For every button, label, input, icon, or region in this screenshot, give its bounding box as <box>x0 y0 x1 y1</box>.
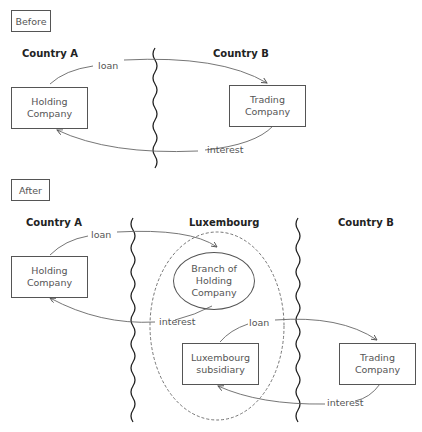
branch-label-2: Holding <box>191 275 237 287</box>
trading-label-2: Company <box>245 106 290 118</box>
subsidiary-label-2: subsidiary <box>191 364 250 376</box>
holding-label-1: Holding <box>27 96 72 108</box>
interest-label: interest <box>207 144 243 156</box>
trading-label-2: Company <box>355 364 400 376</box>
interest-label-2: interest <box>327 397 363 409</box>
loan-label-2: loan <box>249 317 269 329</box>
loan-label-1: loan <box>91 229 111 241</box>
holding-label-2: Company <box>27 108 72 120</box>
trading-company-box-after: TradingCompany <box>339 343 416 385</box>
luxembourg-subsidiary-box: Luxembourgsubsidiary <box>182 343 259 385</box>
country-b-label-after: Country B <box>338 217 394 229</box>
subsidiary-label-1: Luxembourg <box>191 352 250 364</box>
interest-label-1: interest <box>159 316 195 328</box>
border-wave-after-left <box>131 218 135 422</box>
holding-company-box-after: HoldingCompany <box>11 256 88 298</box>
country-a-label: Country A <box>22 48 78 60</box>
country-b-label: Country B <box>213 48 269 60</box>
loan-arrow-before <box>50 66 93 84</box>
holding-label-1: Holding <box>27 265 72 277</box>
branch-label-3: Company <box>191 287 237 299</box>
luxembourg-label: Luxembourg <box>189 217 259 229</box>
trading-label-1: Trading <box>245 94 290 106</box>
branch-label-1: Branch of <box>191 263 237 275</box>
before-tag: Before <box>11 10 51 32</box>
loan-label: loan <box>98 60 118 72</box>
trading-label-1: Trading <box>355 352 400 364</box>
country-a-label-after: Country A <box>26 217 82 229</box>
holding-company-box: HoldingCompany <box>11 87 88 129</box>
border-wave-before <box>153 48 157 168</box>
border-wave-after-right <box>296 218 300 422</box>
branch-ellipse: Branch ofHoldingCompany <box>173 252 255 310</box>
trading-company-box: TradingCompany <box>229 85 306 127</box>
holding-label-2: Company <box>27 277 72 289</box>
after-tag: After <box>11 179 50 201</box>
